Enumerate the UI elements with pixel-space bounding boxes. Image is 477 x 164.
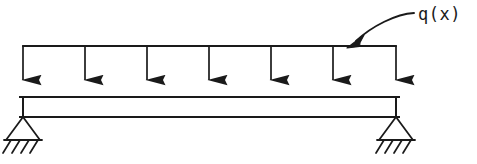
beam-diagram-canvas [0,0,477,164]
hatch-stroke [21,140,29,153]
support-left-hatching [3,140,38,153]
hatch-stroke [394,140,402,153]
load-label-leader [347,13,414,48]
support-right-triangle [379,117,413,140]
hatch-stroke [3,140,11,153]
beam [20,97,399,117]
load-label: q(x) [418,6,461,23]
hatch-stroke [403,140,411,153]
hatch-stroke [376,140,384,153]
load-arrow-group [23,46,396,80]
support-left [3,117,42,153]
hatch-stroke [12,140,20,153]
hatch-stroke [385,140,393,153]
beam-diagram-figure: q(x) [0,0,477,164]
support-left-triangle [6,117,40,140]
support-right [376,117,415,153]
leader-curve [356,13,414,41]
hatch-stroke [30,140,38,153]
support-right-hatching [376,140,411,153]
